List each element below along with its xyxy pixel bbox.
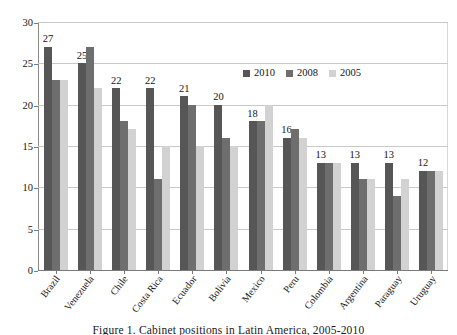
bar-2008-mexico — [257, 121, 265, 270]
bar-2008-chile — [120, 121, 128, 270]
legend-item-2005: 2005 — [329, 68, 361, 79]
bar-2005-chile — [128, 129, 136, 270]
bar-value-label: 13 — [384, 150, 395, 161]
ytick-label-15: 15 — [23, 142, 34, 153]
bar-2010-peru: 16 — [283, 138, 291, 270]
x-axis-labels: BrazilVenezuelaChileCosta RicaEcuadorBol… — [39, 272, 449, 324]
bar-2010-costa-rica: 22 — [146, 88, 154, 270]
bar-2005-costa-rica — [162, 146, 170, 270]
bar-group-ecuador: 21 — [175, 22, 209, 270]
bar-group-paraguay: 13 — [380, 22, 414, 270]
ytick-label-10: 10 — [23, 183, 34, 194]
bar-value-label: 21 — [179, 84, 190, 95]
x-axis-label-cell: Ecuador — [176, 272, 210, 324]
ytick-mark-5 — [34, 230, 38, 231]
ytick-mark-15 — [34, 147, 38, 148]
figure-bar-chart: 30 25 20 15 10 5 0 272522222120181613131… — [0, 0, 457, 335]
bar-2005-brazil — [60, 80, 68, 270]
ytick-mark-10 — [34, 188, 38, 189]
ytick-label-5: 5 — [28, 224, 33, 235]
bar-2008-colombia — [325, 163, 333, 270]
ytick-label-30: 30 — [23, 18, 34, 29]
bar-2005-bolivia — [230, 146, 238, 270]
x-axis-label-text: Peru — [282, 274, 301, 295]
bar-group-mexico: 18 — [243, 22, 277, 270]
legend-label-2008: 2008 — [297, 68, 318, 79]
bar-value-label: 12 — [418, 158, 429, 169]
legend-item-2010: 2010 — [243, 68, 275, 79]
legend-swatch-2005-icon — [329, 70, 336, 77]
bar-2010-brazil: 27 — [44, 47, 52, 270]
bar-2005-colombia — [333, 163, 341, 270]
bar-2010-bolivia: 20 — [214, 105, 222, 270]
bar-2008-peru — [291, 129, 299, 270]
bar-2010-venezuela: 25 — [78, 63, 86, 270]
bar-2010-colombia: 13 — [317, 163, 325, 270]
plot-area: 30 25 20 15 10 5 0 272522222120181613131… — [38, 22, 448, 270]
figure-caption: Figure 1. Cabinet positions in Latin Ame… — [0, 324, 457, 335]
bar-value-label: 27 — [43, 34, 54, 45]
ytick-label-20: 20 — [23, 100, 34, 111]
bar-2005-peru — [299, 138, 307, 270]
x-axis-label-cell: Uruguay — [415, 272, 449, 324]
bar-group-argentina: 13 — [346, 22, 380, 270]
bar-2005-ecuador — [196, 146, 204, 270]
bar-2008-bolivia — [222, 138, 230, 270]
bar-2008-paraguay — [393, 196, 401, 270]
x-axis-label-cell: Venezuela — [73, 272, 107, 324]
bar-groups: 272522222120181613131312 — [39, 22, 448, 270]
legend-swatch-2008-icon — [286, 70, 293, 77]
bar-value-label: 18 — [247, 109, 258, 120]
x-axis-label-text: Chile — [109, 274, 130, 297]
bar-2008-uruguay — [427, 171, 435, 270]
bar-2008-brazil — [52, 80, 60, 270]
legend-swatch-2010-icon — [243, 70, 250, 77]
bar-2005-venezuela — [94, 88, 102, 270]
bar-group-chile: 22 — [107, 22, 141, 270]
bar-2008-costa-rica — [154, 179, 162, 270]
bar-group-brazil: 27 — [39, 22, 73, 270]
bar-2005-uruguay — [435, 171, 443, 270]
bar-value-label: 13 — [349, 150, 360, 161]
bar-value-label: 13 — [315, 150, 326, 161]
bar-value-label: 22 — [111, 76, 122, 87]
ytick-mark-0 — [34, 271, 38, 272]
bar-2005-paraguay — [401, 179, 409, 270]
legend-item-2008: 2008 — [286, 68, 318, 79]
x-axis-label-text: Brazil — [39, 274, 62, 299]
bar-value-label: 20 — [213, 92, 224, 103]
ytick-mark-25 — [34, 64, 38, 65]
bar-2008-argentina — [359, 179, 367, 270]
bar-2005-mexico — [265, 105, 273, 270]
bar-2005-argentina — [367, 179, 375, 270]
bar-group-bolivia: 20 — [209, 22, 243, 270]
ytick-mark-30 — [34, 23, 38, 24]
ytick-label-25: 25 — [23, 59, 34, 70]
x-axis-label-cell: Mexico — [244, 272, 278, 324]
bar-group-peru: 16 — [278, 22, 312, 270]
bar-value-label: 22 — [145, 76, 156, 87]
bar-group-venezuela: 25 — [73, 22, 107, 270]
ytick-label-0: 0 — [28, 266, 33, 277]
bar-2010-mexico: 18 — [249, 121, 257, 270]
bar-group-uruguay: 12 — [414, 22, 448, 270]
x-axis-label-text: Bolivia — [207, 274, 233, 303]
bar-group-colombia: 13 — [312, 22, 346, 270]
legend: 2010 2008 2005 — [243, 68, 361, 79]
x-axis-label-text: Mexico — [240, 274, 267, 304]
bar-2008-venezuela — [86, 47, 94, 270]
x-axis-label-cell: Bolivia — [210, 272, 244, 324]
legend-label-2010: 2010 — [254, 68, 275, 79]
ytick-mark-20 — [34, 106, 38, 107]
legend-label-2005: 2005 — [340, 68, 361, 79]
bar-group-costa-rica: 22 — [141, 22, 175, 270]
